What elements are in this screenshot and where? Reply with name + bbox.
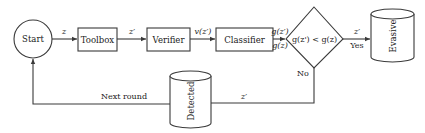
decision-label: g(z') < g(z) <box>292 35 337 44</box>
edge-label-z-prime-no: z′ <box>240 92 247 101</box>
edge-toolbox-verifier: z′ <box>117 27 146 39</box>
toolbox-node: Toolbox <box>78 28 117 51</box>
start-node: Start <box>14 20 52 58</box>
edge-label-g-z-prime: g(z′) <box>271 27 288 36</box>
evasive-node: Evasive <box>371 9 414 62</box>
detected-label: Detected <box>186 81 196 120</box>
edge-decision-detected: No z′ <box>211 68 314 103</box>
edge-verifier-classifier: v(z′) <box>190 27 215 39</box>
edge-label-z-prime-yes: z′ <box>353 27 360 36</box>
edge-label-z-prime: z′ <box>128 27 135 36</box>
decision-node: g(z') < g(z) <box>286 7 343 68</box>
edge-start-toolbox: z <box>52 27 77 39</box>
classifier-node: Classifier <box>216 28 273 51</box>
start-label: Start <box>22 34 44 44</box>
edge-decision-evasive: z′ Yes <box>343 27 370 50</box>
edge-label-no: No <box>297 69 309 78</box>
evasive-label: Evasive <box>388 20 398 53</box>
flow-diagram: Start z Toolbox z′ Verifier v(z′) Classi… <box>0 0 425 133</box>
verifier-label: Verifier <box>152 35 186 45</box>
classifier-label: Classifier <box>224 35 265 45</box>
detected-node: Detected <box>170 71 211 128</box>
toolbox-label: Toolbox <box>81 35 115 45</box>
edge-label-z: z <box>61 27 67 36</box>
edge-detected-start: Next round <box>33 59 170 104</box>
edge-label-yes: Yes <box>349 41 363 50</box>
edge-label-g-z: g(z) <box>272 41 288 50</box>
edge-label-next-round: Next round <box>101 92 147 101</box>
edge-label-v-z-prime: v(z′) <box>195 27 212 36</box>
verifier-node: Verifier <box>147 28 190 51</box>
